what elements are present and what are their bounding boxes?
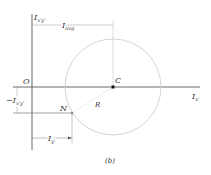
radius-line <box>72 87 113 113</box>
horizontal-axis-label: Ix' <box>191 92 199 102</box>
vertical-axis-label: Ix'y' <box>33 13 46 24</box>
point-n-label: N <box>59 104 68 113</box>
mohr-circle-diagram: Ix'y' Iavg O C Ix' −Ix'y' N R Iy' (b) <box>0 0 211 175</box>
neg-product-label: −Ix'y' <box>6 96 24 107</box>
point-n <box>71 112 73 114</box>
radius-label: R <box>94 101 101 109</box>
figure-caption: (b) <box>105 157 115 165</box>
origin-label: O <box>23 77 30 86</box>
avg-label: Iavg <box>61 21 74 32</box>
center-label: C <box>115 76 121 85</box>
iy-arrow-icon <box>68 137 72 140</box>
center-point <box>112 86 115 89</box>
iy-label: Iy' <box>47 134 55 145</box>
